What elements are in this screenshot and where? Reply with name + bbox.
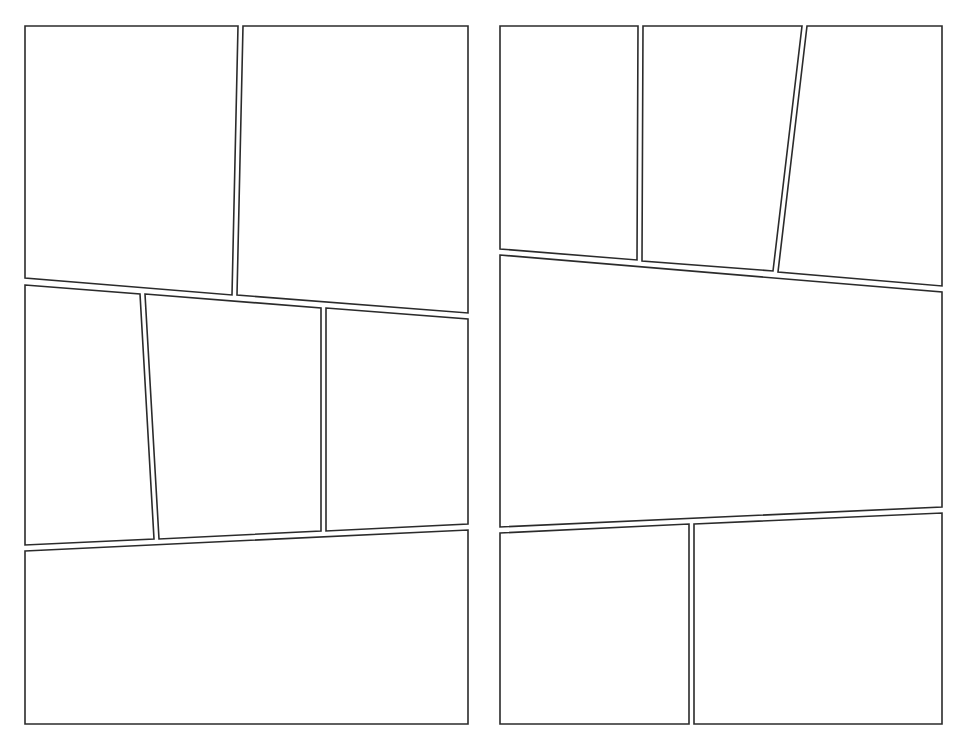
comic-panel-r4[interactable] xyxy=(500,255,942,527)
comic-panel-l2[interactable] xyxy=(237,26,468,313)
right-page xyxy=(500,26,942,724)
comic-panel-l6[interactable] xyxy=(25,530,468,724)
comic-panel-r1[interactable] xyxy=(500,26,638,260)
comic-panel-r5[interactable] xyxy=(500,524,689,724)
comic-panel-l5[interactable] xyxy=(326,308,468,531)
comic-panel-r3[interactable] xyxy=(778,26,942,286)
comic-panel-l4[interactable] xyxy=(145,294,321,539)
comic-panel-l1[interactable] xyxy=(25,26,238,295)
comic-spread xyxy=(0,0,955,745)
comic-panel-r2[interactable] xyxy=(642,26,802,271)
comic-panel-l3[interactable] xyxy=(25,285,154,545)
left-page xyxy=(25,26,468,724)
comic-panel-r6[interactable] xyxy=(694,513,942,724)
